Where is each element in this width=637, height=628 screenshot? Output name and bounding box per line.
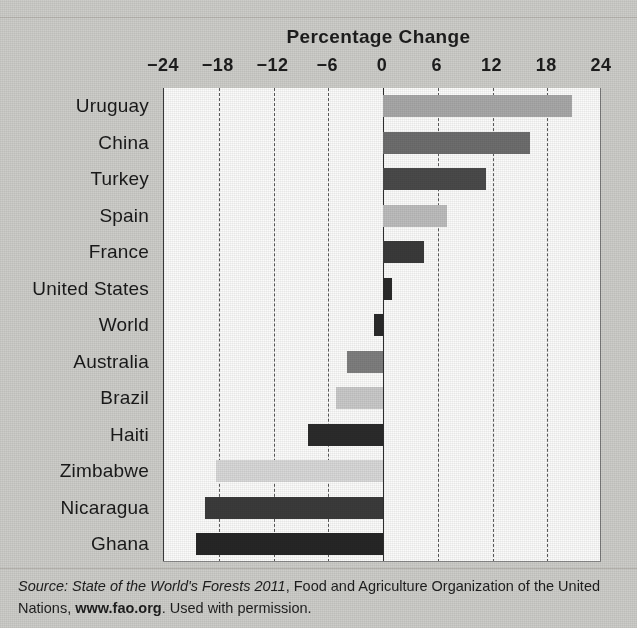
bar-brazil <box>336 387 383 409</box>
bar-row <box>164 271 600 308</box>
bar-row <box>164 88 600 125</box>
x-axis-tick-labels: −24−18−12−606121824 <box>0 55 637 81</box>
header-divider <box>0 17 637 18</box>
y-label-spain: Spain <box>99 198 149 235</box>
bar-ghana <box>196 533 383 555</box>
bar-row <box>164 526 600 563</box>
y-axis-category-labels: UruguayChinaTurkeySpainFranceUnited Stat… <box>0 88 157 562</box>
source-url: www.fao.org <box>75 600 161 616</box>
y-label-united-states: United States <box>32 271 149 308</box>
cropped-header-text <box>0 0 637 16</box>
footer-divider <box>0 568 637 569</box>
x-tick-24: 24 <box>590 55 611 76</box>
x-tick-neg6: −6 <box>316 55 338 76</box>
chart-title: Percentage Change <box>0 26 637 48</box>
source-label: Source: <box>18 578 68 594</box>
y-label-france: France <box>89 234 149 271</box>
y-label-haiti: Haiti <box>110 417 149 454</box>
bar-row <box>164 417 600 454</box>
bar-row <box>164 380 600 417</box>
x-tick-neg24: −24 <box>147 55 179 76</box>
bar-zimbabwe <box>216 460 383 482</box>
x-tick-neg12: −12 <box>256 55 288 76</box>
bar-turkey <box>383 168 486 190</box>
y-label-ghana: Ghana <box>91 526 149 563</box>
bar-china <box>383 132 530 154</box>
y-label-zimbabwe: Zimbabwe <box>60 453 149 490</box>
source-tail: . Used with permission. <box>162 600 312 616</box>
plot-area <box>163 88 601 562</box>
x-tick-0: 0 <box>377 55 388 76</box>
bar-france <box>383 241 424 263</box>
bar-uruguay <box>383 95 572 117</box>
bar-spain <box>383 205 447 227</box>
x-tick-6: 6 <box>431 55 442 76</box>
bar-row <box>164 344 600 381</box>
y-label-world: World <box>99 307 149 344</box>
bar-row <box>164 490 600 527</box>
bar-nicaragua <box>205 497 383 519</box>
y-label-nicaragua: Nicaragua <box>61 490 149 527</box>
y-label-uruguay: Uruguay <box>76 88 149 125</box>
x-tick-12: 12 <box>481 55 502 76</box>
bar-australia <box>347 351 384 373</box>
bar-united-states <box>383 278 392 300</box>
bar-row <box>164 161 600 198</box>
bar-row <box>164 453 600 490</box>
bar-haiti <box>308 424 383 446</box>
bar-row <box>164 198 600 235</box>
bar-row <box>164 234 600 271</box>
y-label-brazil: Brazil <box>100 380 149 417</box>
y-label-australia: Australia <box>73 344 149 381</box>
bar-world <box>374 314 383 336</box>
x-tick-18: 18 <box>536 55 557 76</box>
y-label-china: China <box>98 125 149 162</box>
source-note: Source: State of the World's Forests 201… <box>18 576 618 620</box>
y-label-turkey: Turkey <box>90 161 149 198</box>
bar-row <box>164 307 600 344</box>
plot-bottom-axis-rule <box>163 561 601 562</box>
x-tick-neg18: −18 <box>202 55 234 76</box>
source-title: State of the World's Forests 2011 <box>72 578 286 594</box>
bar-row <box>164 125 600 162</box>
